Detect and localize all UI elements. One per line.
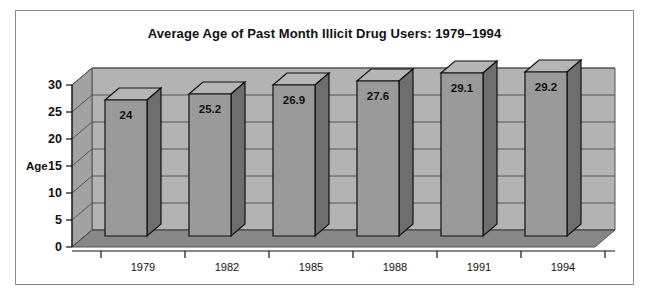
- bar-1994[interactable]: 29.2: [525, 60, 581, 236]
- bar-side-face: [231, 82, 245, 236]
- bar-value-label: 27.6: [367, 90, 389, 102]
- bar-front-face: [525, 72, 567, 236]
- bar-front-face: [357, 81, 399, 236]
- y-tick-label: 10: [48, 186, 62, 200]
- bar-value-label: 24: [120, 109, 133, 121]
- bar-side-face: [483, 61, 497, 236]
- x-category-label: 1985: [299, 261, 323, 273]
- bar-value-label: 25.2: [199, 103, 221, 115]
- bar-front-face: [273, 85, 315, 236]
- y-tick-label: 25: [48, 105, 62, 119]
- bar-1982[interactable]: 25.2: [189, 82, 245, 236]
- bar-1988[interactable]: 27.6: [357, 69, 413, 236]
- x-axis: [72, 251, 615, 258]
- bar-side-face: [147, 88, 161, 236]
- y-tick-label: 15: [48, 159, 62, 173]
- y-tick-label: 5: [55, 213, 62, 227]
- x-category-label: 1991: [467, 261, 491, 273]
- x-category-label: 1988: [383, 261, 407, 273]
- bar-chart-plot: 0 5 10 15 20 25 30 Age 24 25.2 26.9 27.6: [0, 0, 647, 301]
- bar-1991[interactable]: 29.1: [441, 61, 497, 236]
- bar-side-face: [399, 69, 413, 236]
- bar-value-label: 26.9: [283, 94, 305, 106]
- x-category-label: 1994: [551, 261, 575, 273]
- bar-value-label: 29.2: [535, 81, 557, 93]
- bar-front-face: [189, 94, 231, 236]
- y-tick-label: 0: [55, 240, 62, 254]
- y-axis-title: Age: [26, 160, 48, 172]
- bar-value-label: 29.1: [451, 82, 474, 94]
- y-tick-label: 20: [48, 132, 62, 146]
- x-axis-category-labels: 1979 1982 1985 1988 1991 1994: [131, 261, 575, 273]
- bar-1979[interactable]: 24: [105, 88, 161, 236]
- x-category-label: 1979: [131, 261, 155, 273]
- y-axis-tick-labels: 0 5 10 15 20 25 30: [48, 78, 62, 254]
- y-axis: [66, 85, 72, 247]
- bar-side-face: [315, 73, 329, 236]
- bar-side-face: [567, 60, 581, 236]
- bar-1985[interactable]: 26.9: [273, 73, 329, 236]
- bar-front-face: [441, 73, 483, 236]
- y-tick-label: 30: [48, 78, 62, 92]
- x-category-label: 1982: [215, 261, 239, 273]
